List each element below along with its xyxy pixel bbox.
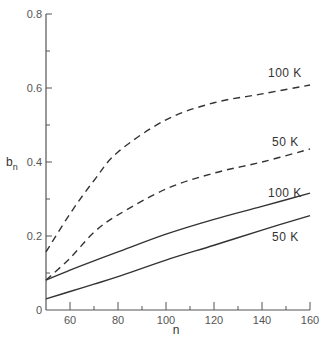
label-100k-solid: 100 K (268, 186, 302, 200)
labels: 100 K50 K100 K50 K (268, 66, 302, 244)
chart: 608010012014016000.20.40.60.8 100 K50 K1… (0, 0, 329, 342)
y-tick-label: 0.6 (27, 82, 42, 94)
x-tick-label: 160 (301, 314, 319, 326)
y-tick-label: 0.8 (27, 8, 42, 20)
label-50k-solid: 50 K (272, 230, 299, 244)
y-axis-label: bn (6, 155, 18, 172)
y-axis-label-subscript: n (13, 162, 18, 172)
y-tick-label: 0.2 (27, 230, 42, 242)
curve-50k-dashed (46, 149, 310, 280)
curve-100k-solid (46, 193, 310, 280)
axes (46, 14, 310, 310)
y-tick-label: 0.4 (27, 156, 42, 168)
x-tick-label: 80 (112, 314, 124, 326)
x-tick-label: 140 (253, 314, 271, 326)
ticks: 608010012014016000.20.40.60.8 (27, 8, 319, 326)
label-100k-dashed: 100 K (268, 66, 302, 80)
x-tick-label: 60 (64, 314, 76, 326)
curve-50k-solid (46, 216, 310, 299)
y-tick-label: 0 (36, 304, 42, 316)
x-tick-label: 120 (205, 314, 223, 326)
x-axis-label: n (173, 323, 180, 337)
label-50k-dashed: 50 K (272, 135, 299, 149)
